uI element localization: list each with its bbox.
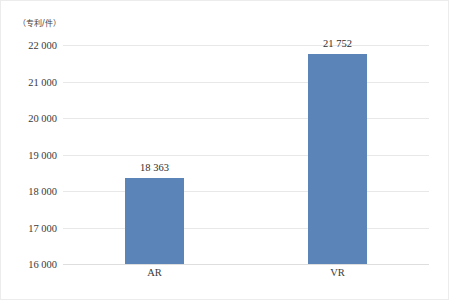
y-axis-tick-label: 17 000 bbox=[5, 222, 57, 233]
gridline bbox=[63, 155, 429, 156]
chart-figure: （专利/件） 16 00017 00018 00019 00020 00021 … bbox=[0, 0, 449, 300]
gridline bbox=[63, 82, 429, 83]
gridline bbox=[63, 45, 429, 46]
y-axis-tick-label: 19 000 bbox=[5, 149, 57, 160]
bar-value-label-vr: 21 752 bbox=[323, 38, 352, 49]
x-axis-tick-labels: ARVR bbox=[63, 267, 429, 285]
gridline bbox=[63, 191, 429, 192]
gridline bbox=[63, 118, 429, 119]
y-axis-tick-label: 16 000 bbox=[5, 259, 57, 270]
y-axis-tick-label: 18 000 bbox=[5, 186, 57, 197]
gridline bbox=[63, 228, 429, 229]
bar-value-label-ar: 18 363 bbox=[140, 162, 169, 173]
y-axis-tick-label: 20 000 bbox=[5, 113, 57, 124]
bar-vr[interactable] bbox=[308, 54, 367, 264]
bar-ar[interactable] bbox=[125, 178, 184, 264]
y-axis-tick-labels: 16 00017 00018 00019 00020 00021 00022 0… bbox=[1, 45, 57, 264]
y-axis-tick-label: 22 000 bbox=[5, 40, 57, 51]
plot-area: 18 36321 752 bbox=[63, 45, 429, 264]
y-axis-unit-label: （专利/件） bbox=[18, 17, 61, 28]
y-axis-tick-label: 21 000 bbox=[5, 76, 57, 87]
x-axis-tick-label-ar: AR bbox=[147, 267, 162, 278]
gridline bbox=[63, 264, 429, 265]
x-axis-tick-label-vr: VR bbox=[330, 267, 345, 278]
